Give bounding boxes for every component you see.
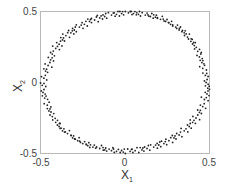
data-point xyxy=(96,16,98,18)
data-point xyxy=(204,75,206,77)
data-point xyxy=(42,92,44,94)
data-point xyxy=(207,83,209,85)
data-point xyxy=(151,13,153,15)
data-point xyxy=(87,145,89,147)
data-point xyxy=(205,82,207,84)
data-point xyxy=(52,50,54,52)
data-point xyxy=(146,148,148,150)
data-point xyxy=(134,150,136,152)
data-point xyxy=(104,149,106,151)
data-point xyxy=(106,17,108,19)
data-point xyxy=(51,57,53,59)
data-point xyxy=(197,50,199,52)
data-point xyxy=(65,35,67,37)
data-point xyxy=(178,29,180,31)
data-point xyxy=(46,104,48,106)
data-point xyxy=(53,60,55,62)
data-point xyxy=(45,86,47,88)
data-point xyxy=(57,119,59,121)
data-point xyxy=(138,13,140,15)
data-point xyxy=(188,38,190,40)
data-point xyxy=(99,17,101,19)
data-point xyxy=(202,72,204,74)
data-point xyxy=(108,148,110,150)
data-point xyxy=(89,147,91,149)
data-point xyxy=(190,40,192,42)
scatter-plot: 0.5 0 -0.5 -0.5 0 0.5 X1 X2 xyxy=(0,0,226,185)
data-point xyxy=(158,144,160,146)
data-point xyxy=(205,107,207,109)
data-point xyxy=(202,106,204,108)
data-point xyxy=(207,90,209,92)
data-point xyxy=(58,43,60,45)
x-tick-label-right: 0.5 xyxy=(202,157,216,168)
data-point xyxy=(74,26,76,28)
y-tick-label-top: 0.5 xyxy=(23,6,37,17)
data-point xyxy=(43,83,45,85)
data-point xyxy=(77,140,79,142)
data-point xyxy=(193,42,195,44)
data-point xyxy=(63,37,65,39)
data-point xyxy=(119,152,121,154)
data-point xyxy=(48,110,50,112)
data-point xyxy=(129,151,131,153)
data-point xyxy=(90,144,92,146)
data-point xyxy=(192,116,194,118)
data-point xyxy=(44,93,46,95)
data-point xyxy=(59,123,61,125)
data-point xyxy=(185,128,187,130)
data-point xyxy=(70,135,72,137)
data-point xyxy=(208,85,210,87)
x-axis-label: X1 xyxy=(121,168,133,183)
data-point xyxy=(48,101,50,103)
data-point xyxy=(92,146,94,148)
data-point xyxy=(139,147,141,149)
data-point xyxy=(102,14,104,16)
data-point xyxy=(70,32,72,34)
data-point xyxy=(127,148,129,150)
data-point xyxy=(180,127,182,129)
data-point xyxy=(131,14,133,16)
data-point xyxy=(199,56,201,58)
data-point xyxy=(46,68,48,70)
data-point xyxy=(195,123,197,125)
data-point xyxy=(67,32,69,34)
data-point xyxy=(202,60,204,62)
data-point xyxy=(201,96,203,98)
data-point xyxy=(51,53,53,55)
data-point xyxy=(45,70,47,72)
data-point xyxy=(82,143,84,145)
data-point xyxy=(40,90,42,92)
data-point xyxy=(148,15,150,17)
data-point xyxy=(49,108,51,110)
y-tick-label-mid: 0 xyxy=(31,77,37,88)
data-point xyxy=(64,131,66,133)
data-point xyxy=(88,142,90,144)
x-tick-label-mid: 0 xyxy=(122,157,128,168)
data-point xyxy=(177,24,179,26)
data-point xyxy=(163,20,165,22)
data-point xyxy=(72,28,74,30)
data-point xyxy=(201,58,203,60)
data-point xyxy=(127,12,129,14)
data-point xyxy=(136,147,138,149)
data-point xyxy=(196,55,198,57)
data-point xyxy=(121,150,123,152)
data-point xyxy=(180,131,182,133)
data-point xyxy=(119,11,121,13)
data-point xyxy=(161,15,163,17)
data-point xyxy=(193,119,195,121)
data-point xyxy=(187,124,189,126)
data-point xyxy=(150,144,152,146)
x-axis-label-subscript: 1 xyxy=(129,176,133,183)
data-point xyxy=(168,140,170,142)
data-point xyxy=(50,59,52,61)
data-point xyxy=(79,26,81,28)
data-point xyxy=(121,13,123,15)
data-point xyxy=(189,119,191,121)
data-point xyxy=(43,77,45,79)
data-point xyxy=(199,119,201,121)
data-point xyxy=(161,140,163,142)
data-point xyxy=(174,135,176,137)
data-point xyxy=(53,113,55,115)
